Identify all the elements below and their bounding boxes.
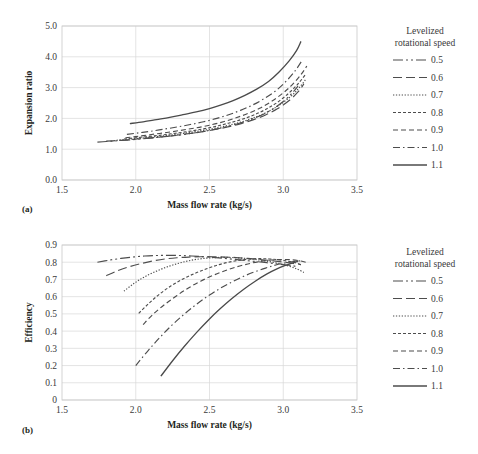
ytick-label: 5.0 (45, 21, 57, 31)
panel-b: 1.52.02.53.03.500.10.20.30.40.50.60.70.8… (0, 227, 478, 454)
legend-item-0.5[interactable]: 0.5 (393, 55, 443, 65)
legend-label-0.5: 0.5 (431, 55, 443, 65)
ytick-label: 0.3 (45, 344, 57, 354)
x-axis-title: Mass flow rate (kg/s) (167, 200, 252, 211)
panel-a-plot: 1.52.02.53.03.50.01.02.03.04.05.0Mass fl… (0, 0, 478, 227)
legend-title-line2: rotational speed (395, 259, 456, 269)
legend-label-0.5: 0.5 (431, 276, 443, 286)
legend-item-0.5[interactable]: 0.5 (393, 276, 443, 286)
curve-0.9 (125, 66, 306, 138)
legend-item-1.0[interactable]: 1.0 (393, 143, 443, 153)
legend-label-0.9: 0.9 (431, 125, 443, 135)
legend-title-line1: Levelized (406, 247, 444, 257)
legend-label-0.8: 0.8 (431, 108, 443, 118)
ytick-label: 0.0 (45, 175, 57, 185)
legend-title-line2: rotational speed (395, 38, 456, 48)
xtick-label: 3.5 (351, 185, 363, 195)
legend-label-1.0: 1.0 (431, 364, 443, 374)
legend-item-0.6[interactable]: 0.6 (393, 73, 443, 83)
ytick-label: 2.0 (45, 114, 57, 124)
curve-1.0 (136, 261, 301, 366)
ytick-label: 0.7 (45, 275, 57, 285)
y-axis-title: Expansion ratio (24, 70, 34, 135)
legend-item-1.1[interactable]: 1.1 (393, 160, 443, 170)
xtick-label: 3.0 (277, 185, 289, 195)
curve-1.1 (161, 261, 298, 376)
xtick-label: 1.5 (56, 405, 68, 415)
legend-item-0.8[interactable]: 0.8 (393, 329, 443, 339)
ytick-label: 0.2 (45, 361, 57, 371)
legend-label-0.6: 0.6 (431, 73, 443, 83)
legend-title-line1: Levelized (406, 26, 444, 36)
legend-label-1.1: 1.1 (431, 160, 443, 170)
figure-container: 1.52.02.53.03.50.01.02.03.04.05.0Mass fl… (0, 0, 478, 454)
legend-item-0.9[interactable]: 0.9 (393, 346, 443, 356)
ytick-label: 0.1 (45, 378, 57, 388)
xtick-label: 2.0 (130, 405, 142, 415)
ytick-label: 0 (52, 395, 57, 405)
legend-item-0.9[interactable]: 0.9 (393, 125, 443, 135)
ytick-label: 0.8 (45, 258, 57, 268)
legend-item-0.7[interactable]: 0.7 (393, 311, 443, 321)
legend-label-1.0: 1.0 (431, 143, 443, 153)
ytick-label: 0.9 (45, 240, 57, 250)
legend-item-0.6[interactable]: 0.6 (393, 294, 443, 304)
panel-tag: (a) (22, 204, 33, 214)
x-axis-title: Mass flow rate (kg/s) (167, 420, 252, 431)
legend-item-1.0[interactable]: 1.0 (393, 364, 443, 374)
ytick-label: 1.0 (45, 145, 57, 155)
y-axis-title: Efficiency (24, 302, 34, 343)
xtick-label: 3.0 (277, 405, 289, 415)
xtick-label: 2.5 (204, 185, 216, 195)
ytick-label: 3.0 (45, 83, 57, 93)
panel-b-plot: 1.52.02.53.03.500.10.20.30.40.50.60.70.8… (0, 227, 478, 454)
legend-label-0.6: 0.6 (431, 294, 443, 304)
ytick-label: 0.6 (45, 292, 57, 302)
legend-item-0.7[interactable]: 0.7 (393, 90, 443, 100)
curve-0.7 (117, 80, 306, 140)
legend-item-1.1[interactable]: 1.1 (393, 381, 443, 391)
ytick-label: 0.4 (45, 327, 57, 337)
curve-1.1 (130, 41, 301, 123)
xtick-label: 1.5 (56, 185, 68, 195)
legend-label-1.1: 1.1 (431, 381, 443, 391)
panel-a: 1.52.02.53.03.50.01.02.03.04.05.0Mass fl… (0, 0, 478, 227)
legend-label-0.8: 0.8 (431, 329, 443, 339)
legend-label-0.9: 0.9 (431, 346, 443, 356)
xtick-label: 2.5 (204, 405, 216, 415)
legend-label-0.7: 0.7 (431, 311, 443, 321)
panel-tag: (b) (22, 425, 33, 435)
legend-label-0.7: 0.7 (431, 90, 443, 100)
curve-0.9 (143, 259, 307, 324)
ytick-label: 0.5 (45, 309, 57, 319)
curve-1.0 (127, 60, 303, 135)
ytick-label: 4.0 (45, 52, 57, 62)
xtick-label: 2.0 (130, 185, 142, 195)
xtick-label: 3.5 (351, 405, 363, 415)
legend-item-0.8[interactable]: 0.8 (393, 108, 443, 118)
